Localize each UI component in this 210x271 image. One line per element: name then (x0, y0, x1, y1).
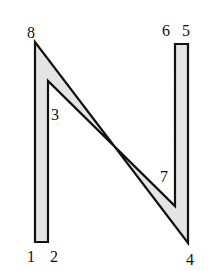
vertex-label-1: 1 (27, 248, 35, 265)
vertex-label-3: 3 (51, 106, 59, 123)
vertex-label-5: 5 (182, 22, 190, 39)
letter-n-diagram: 8 3 1 2 6 5 7 4 (0, 0, 210, 271)
vertex-label-8: 8 (27, 24, 35, 41)
n-shape-polygon (35, 42, 188, 243)
vertex-label-4: 4 (186, 251, 194, 268)
vertex-label-7: 7 (160, 168, 168, 185)
vertex-label-6: 6 (162, 22, 170, 39)
vertex-label-2: 2 (50, 248, 58, 265)
